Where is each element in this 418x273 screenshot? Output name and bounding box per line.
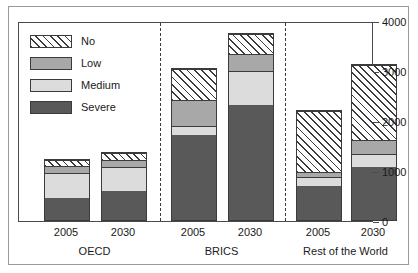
bar-segment-severe xyxy=(45,198,89,220)
y-axis-right: 01000200030004000 xyxy=(373,22,375,222)
bar-segment-no xyxy=(102,153,146,160)
bar-stack xyxy=(228,33,274,221)
legend-swatch-low-icon xyxy=(30,57,72,70)
chart-legend: No Low Medium Severe xyxy=(30,32,120,120)
bar-segment-severe xyxy=(102,191,146,220)
bar-segment-no xyxy=(45,160,89,167)
bar-segment-severe xyxy=(172,135,216,220)
x-tick-label: 2030 xyxy=(111,226,135,238)
bar-segment-low xyxy=(102,160,146,167)
x-tick-label: 2030 xyxy=(238,226,262,238)
y-tick-label: 1000 xyxy=(382,166,406,178)
legend-item-severe: Severe xyxy=(30,98,120,116)
bar-segment-medium xyxy=(297,177,341,186)
legend-swatch-medium-icon xyxy=(30,79,72,92)
legend-label-low: Low xyxy=(81,57,101,69)
group-divider-2 xyxy=(285,23,286,221)
legend-label-severe: Severe xyxy=(81,101,116,113)
bar-segment-medium xyxy=(45,173,89,198)
group-divider-1 xyxy=(160,23,161,221)
x-tick-label: 2030 xyxy=(361,226,385,238)
bar-stack xyxy=(296,110,342,221)
legend-item-medium: Medium xyxy=(30,76,120,94)
legend-item-low: Low xyxy=(30,54,120,72)
x-group-label: BRICS xyxy=(205,245,239,257)
x-group-label: Rest of the World xyxy=(303,245,388,257)
bar-segment-medium xyxy=(229,71,273,105)
y-tick-mark xyxy=(373,122,379,123)
bar-stack xyxy=(101,152,147,221)
y-tick-mark xyxy=(373,172,379,173)
y-tick-label: 4000 xyxy=(382,16,406,28)
bar-segment-medium xyxy=(172,126,216,135)
y-tick-label: 3000 xyxy=(382,66,406,78)
bar-segment-low xyxy=(229,54,273,71)
bar-segment-no xyxy=(297,111,341,172)
bar-stack xyxy=(44,159,90,222)
legend-label-no: No xyxy=(81,35,95,47)
x-tick-label: 2005 xyxy=(181,226,205,238)
x-group-label: OECD xyxy=(79,245,111,257)
x-tick-label: 2005 xyxy=(306,226,330,238)
x-tick-label: 2005 xyxy=(54,226,78,238)
bar-segment-low xyxy=(172,100,216,126)
legend-label-medium: Medium xyxy=(81,79,120,91)
bar-segment-medium xyxy=(102,167,146,191)
legend-item-no: No xyxy=(30,32,120,50)
y-tick-label: 2000 xyxy=(382,116,406,128)
bar-segment-no xyxy=(229,34,273,54)
bar-segment-severe xyxy=(229,105,273,220)
legend-swatch-severe-icon xyxy=(30,101,72,114)
y-tick-mark xyxy=(373,72,379,73)
y-tick-mark xyxy=(373,22,379,23)
legend-swatch-no-icon xyxy=(30,35,72,48)
bar-segment-no xyxy=(172,69,216,100)
chart-figure: 01000200030004000 2005203020052030200520… xyxy=(0,0,418,273)
bar-stack xyxy=(171,68,217,222)
bar-segment-severe xyxy=(297,186,341,220)
y-tick-mark xyxy=(373,222,379,223)
